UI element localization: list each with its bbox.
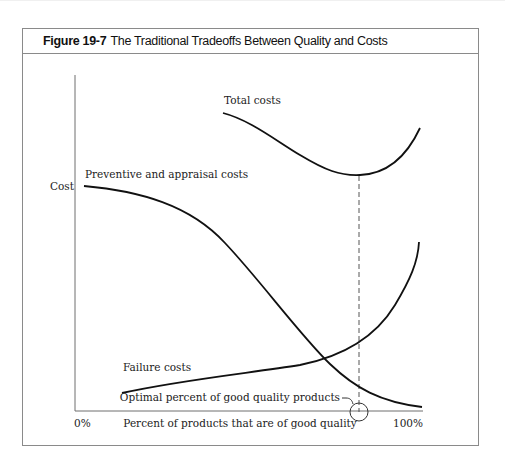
x-axis-label: Percent of products that are of good qua… [123, 417, 356, 429]
optimal-leader-line [342, 398, 353, 404]
total-costs-label: Total costs [224, 94, 281, 106]
total-costs-curve [223, 113, 420, 175]
x-max-label: 100% [393, 417, 423, 429]
chart: Cost Total costs Preventive and appraisa… [0, 0, 505, 471]
failure-costs-label: Failure costs [123, 361, 191, 373]
x-min-label: 0% [74, 417, 91, 429]
y-axis-label: Cost [50, 180, 75, 192]
preventive-label: Preventive and appraisal costs [85, 168, 248, 180]
optimal-label: Optimal percent of good quality products [120, 391, 340, 403]
preventive-appraisal-curve [84, 186, 422, 407]
